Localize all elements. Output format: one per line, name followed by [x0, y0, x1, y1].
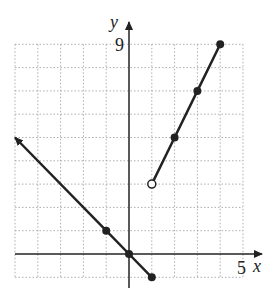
y-tick-9: 9 [115, 35, 124, 55]
piecewise-graph: y x 9 5 [0, 0, 280, 292]
y-axis-label: y [108, 12, 118, 32]
closed-point [102, 227, 110, 235]
open-point [148, 180, 156, 188]
closed-point [171, 134, 179, 142]
x-axis-label: x [252, 256, 261, 276]
plot-lines [15, 40, 224, 281]
axes [15, 22, 262, 288]
closed-point [216, 40, 224, 48]
x-tick-5: 5 [237, 258, 246, 278]
closed-point [125, 250, 133, 258]
closed-point [193, 87, 201, 95]
closed-point [148, 273, 156, 281]
